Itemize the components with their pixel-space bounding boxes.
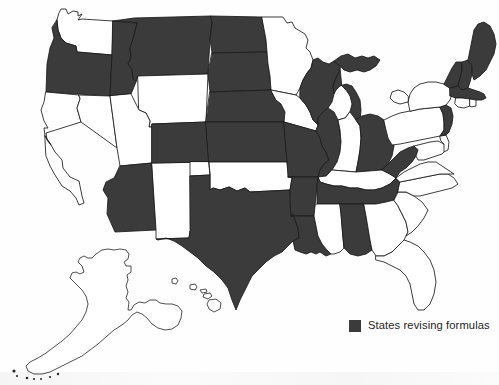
state-CT[interactable] — [455, 98, 470, 108]
state-PA[interactable] — [384, 107, 444, 145]
aleutian-speck-2 — [16, 375, 18, 377]
hawaii-island-maui[interactable] — [203, 293, 212, 299]
state-SD[interactable] — [208, 52, 271, 92]
state-MD[interactable] — [414, 141, 446, 160]
aleutian-speck-5 — [40, 378, 42, 380]
state-AR[interactable] — [288, 177, 318, 216]
hawaii-island-molokai[interactable] — [200, 289, 207, 293]
state-AK[interactable] — [26, 249, 182, 374]
map-legend: States revising formulas — [349, 320, 490, 332]
state-RI[interactable] — [470, 99, 476, 107]
hawaii-island-hawaii[interactable] — [207, 299, 221, 312]
aleutian-speck-3 — [26, 377, 29, 380]
legend-label-shaded: States revising formulas — [368, 320, 490, 331]
aleutian-speck-1 — [12, 369, 15, 372]
us-choropleth-figure: States revising formulas — [0, 0, 499, 385]
state-ME[interactable] — [468, 22, 496, 80]
state-MA[interactable] — [450, 86, 486, 100]
aleutian-speck-6 — [49, 376, 51, 378]
aleutian-speck-7 — [57, 373, 59, 375]
state-ND[interactable] — [210, 16, 267, 53]
hawaii-island-kauai[interactable] — [172, 278, 178, 284]
hawaii-island-oahu[interactable] — [190, 284, 197, 290]
state-KS[interactable] — [206, 122, 287, 162]
state-CO[interactable] — [152, 122, 209, 163]
state-AZ[interactable] — [103, 163, 156, 232]
aleutian-speck-4 — [33, 378, 35, 380]
legend-swatch-shaded — [349, 320, 361, 332]
